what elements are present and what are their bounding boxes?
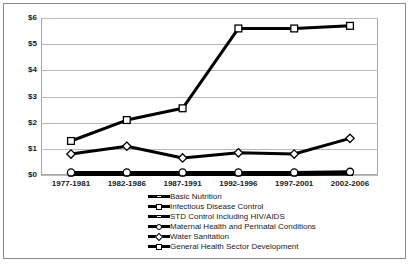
legend-marker-icon: [148, 202, 170, 211]
legend-label: General Health Sector Development: [170, 242, 299, 251]
legend-label: Maternal Health and Perinatal Conditions: [170, 222, 316, 231]
legend-item[interactable]: General Health Sector Development: [148, 242, 398, 252]
y-axis-tick-label: $6: [28, 14, 37, 22]
data-point-marker: [68, 138, 75, 145]
x-axis-tick-label: 2002-2006: [322, 179, 378, 188]
chart-figure: $0$1$2$3$4$5$6 1977-19811982-19861987-19…: [0, 0, 409, 265]
legend-item[interactable]: STD Control Including HIV/AIDS: [148, 212, 398, 222]
data-point-marker: [179, 169, 186, 176]
y-axis-tick-label: $3: [28, 93, 37, 101]
legend-label: STD Control Including HIV/AIDS: [170, 212, 285, 221]
legend-label: Infectious Disease Control: [170, 202, 263, 211]
y-axis-tick-labels: $0$1$2$3$4$5$6: [0, 0, 37, 265]
legend-item[interactable]: Infectious Disease Control: [148, 202, 398, 212]
data-point-marker: [123, 169, 130, 176]
legend-label: Water Sanitation: [170, 232, 229, 241]
data-point-marker: [347, 22, 354, 29]
x-axis-tick-label: 1987-1991: [155, 179, 211, 188]
data-point-marker: [346, 134, 354, 142]
legend-marker-icon: [148, 242, 170, 251]
data-point-marker: [291, 25, 298, 32]
series-line: [71, 138, 350, 158]
data-point-marker: [346, 168, 353, 175]
x-axis-tick-label: 1992-1996: [210, 179, 266, 188]
x-axis-tick-label: 1977-1981: [43, 179, 99, 188]
legend-marker-icon: [148, 192, 170, 201]
data-point-marker: [235, 25, 242, 32]
y-axis-tick-label: $2: [28, 119, 37, 127]
x-axis-tick-label: 1982-1986: [99, 179, 155, 188]
data-point-marker: [290, 150, 298, 158]
legend-marker-icon: [148, 232, 170, 241]
data-point-marker: [179, 105, 186, 112]
y-axis-tick-label: $1: [28, 145, 37, 153]
series-plot: [41, 18, 378, 175]
legend-item[interactable]: Water Sanitation: [148, 232, 398, 242]
data-point-marker: [234, 149, 242, 157]
series-line: [71, 172, 350, 173]
legend-item[interactable]: Basic Nutrition: [148, 192, 398, 202]
legend-marker-icon: [148, 212, 170, 221]
legend-marker-icon: [148, 222, 170, 231]
legend-label: Basic Nutrition: [170, 192, 222, 201]
data-point-marker: [235, 169, 242, 176]
y-axis-tick-label: $5: [28, 40, 37, 48]
data-point-marker: [291, 169, 298, 176]
data-point-marker: [178, 154, 186, 162]
data-point-marker: [67, 150, 75, 158]
data-point-marker: [123, 117, 130, 124]
chart-legend: Basic NutritionInfectious Disease Contro…: [148, 192, 398, 252]
data-point-marker: [123, 142, 131, 150]
y-axis-tick-label: $0: [28, 171, 37, 179]
x-axis-tick-label: 1997-2001: [266, 179, 322, 188]
y-axis-tick-label: $4: [28, 66, 37, 74]
series-line: [71, 26, 350, 141]
data-point-marker: [67, 169, 74, 176]
legend-item[interactable]: Maternal Health and Perinatal Conditions: [148, 222, 398, 232]
